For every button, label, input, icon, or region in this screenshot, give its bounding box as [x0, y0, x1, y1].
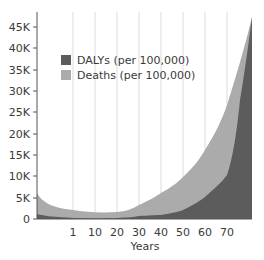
y-tick-25k: 25K [9, 106, 31, 119]
x-axis: 1 10 20 30 40 50 60 70 Years [37, 219, 252, 253]
y-axis: 0 5K 10K 15K 20K 25K 30K 35K 40K 45K [9, 12, 37, 226]
x-axis-title: Years [129, 240, 159, 253]
y-tick-35k: 35K [9, 64, 31, 77]
x-tick-60: 60 [198, 226, 212, 239]
y-tick-0: 0 [23, 213, 30, 226]
dalys-area [37, 17, 252, 219]
legend: DALYs (per 100,000) Deaths (per 100,000) [61, 54, 195, 82]
y-tick-30k: 30K [9, 85, 31, 98]
x-tick-30: 30 [132, 226, 146, 239]
y-tick-15k: 15K [9, 149, 31, 162]
y-tick-20k: 20K [9, 128, 31, 141]
x-tick-20: 20 [110, 226, 124, 239]
y-tick-40k: 40K [9, 42, 31, 55]
legend-label-dalys: DALYs (per 100,000) [77, 54, 189, 67]
legend-swatch-dalys [61, 55, 71, 65]
area-chart: 0 5K 10K 15K 20K 25K 30K 35K 40K 45K 1 1… [0, 0, 264, 260]
y-tick-10k: 10K [9, 170, 31, 183]
legend-swatch-deaths [61, 70, 71, 80]
y-tick-5k: 5K [16, 192, 31, 205]
x-tick-10: 10 [88, 226, 102, 239]
x-tick-50: 50 [176, 226, 190, 239]
legend-label-deaths: Deaths (per 100,000) [77, 69, 195, 82]
x-tick-1: 1 [70, 226, 77, 239]
y-tick-45k: 45K [9, 21, 31, 34]
x-tick-40: 40 [154, 226, 168, 239]
x-tick-70: 70 [220, 226, 234, 239]
